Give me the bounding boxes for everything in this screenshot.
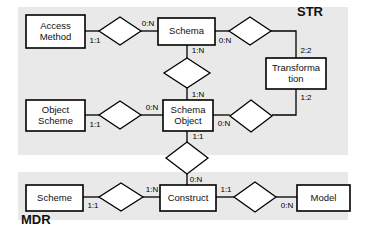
entity-label-scheme: Scheme [37, 192, 72, 203]
card-access-method: 1:1 [89, 36, 101, 45]
card-schema-object-up: 1:N [192, 90, 205, 99]
entity-model: Model [297, 185, 350, 211]
entity-transformation: Transformation [266, 58, 326, 89]
entity-schema-object: SchemaObject [163, 100, 213, 131]
card-transformation-top: 2:2 [300, 46, 312, 55]
entity-label-schema-object: Object [174, 115, 202, 126]
entity-label-transformation: tion [288, 73, 303, 84]
entity-label-construct: Construct [168, 192, 209, 203]
card-construct-left: 1:N [146, 185, 159, 194]
entity-access-method: AccessMethod [26, 15, 85, 48]
entity-label-transformation: Transforma [272, 62, 321, 73]
entity-label-schema-object: Schema [171, 104, 207, 115]
card-schema-down: 1:N [192, 46, 205, 55]
card-schema-right: 0:N [219, 36, 232, 45]
card-construct-up: 0:N [190, 175, 203, 184]
card-model: 0:N [281, 201, 294, 210]
er-diagram-canvas: AccessMethodSchemaTransformationObjectSc… [0, 0, 367, 235]
card-schema-object-left: 0:N [146, 103, 159, 112]
card-object-scheme: 1:1 [89, 120, 101, 129]
entity-label-schema: Schema [169, 25, 205, 36]
entity-label-model: Model [311, 192, 337, 203]
card-transformation-bottom: 1:2 [300, 93, 312, 102]
entity-label-access-method: Access [40, 20, 71, 31]
card-schema-object-right: 0:N [218, 119, 231, 128]
entity-scheme: Scheme [26, 185, 83, 211]
entity-label-object-scheme: Scheme [38, 115, 73, 126]
entity-construct: Construct [160, 185, 216, 211]
card-schema-left: 0:N [142, 19, 155, 28]
entity-object-scheme: ObjectScheme [26, 100, 85, 131]
region-label-mdr: MDR [21, 212, 51, 227]
region-label-str: STR [297, 4, 324, 19]
entity-label-object-scheme: Object [42, 104, 70, 115]
entity-schema: Schema [158, 18, 215, 45]
entity-label-access-method: Method [40, 31, 72, 42]
card-scheme: 1:1 [87, 201, 99, 210]
er-diagram-svg: AccessMethodSchemaTransformationObjectSc… [0, 0, 367, 235]
card-construct-right: 1:1 [220, 185, 232, 194]
card-schema-object-down: 1:1 [192, 132, 204, 141]
